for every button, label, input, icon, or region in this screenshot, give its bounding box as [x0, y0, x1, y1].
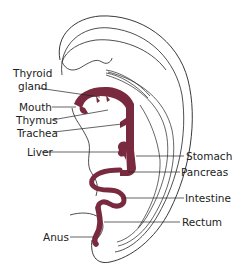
rectum [95, 208, 101, 244]
embryo-outer-outline [59, 16, 192, 263]
leader-lines [38, 88, 184, 237]
label-thyroid-gland-line2: gland [18, 80, 47, 92]
pharynx [74, 87, 134, 150]
label-liver: Liver [27, 146, 53, 158]
body-wall-line-2 [106, 75, 168, 242]
label-thymus: Thymus [16, 114, 58, 126]
body-wall-line-3 [138, 105, 160, 228]
label-pancreas: Pancreas [181, 166, 228, 178]
label-rectum: Rectum [182, 216, 222, 228]
leader-thymus [52, 110, 108, 120]
head-cavity-outline [62, 40, 166, 70]
leader-trachea [54, 124, 122, 132]
label-mouth: Mouth [19, 101, 52, 113]
label-intestine: Intestine [185, 192, 231, 204]
label-stomach: Stomach [186, 150, 232, 162]
intestine-loop [92, 170, 124, 208]
label-trachea: Trachea [17, 127, 58, 139]
label-thyroid-gland-line1: Thyroid [13, 67, 52, 79]
liver-bud [118, 142, 126, 160]
label-anus: Anus [43, 231, 69, 243]
